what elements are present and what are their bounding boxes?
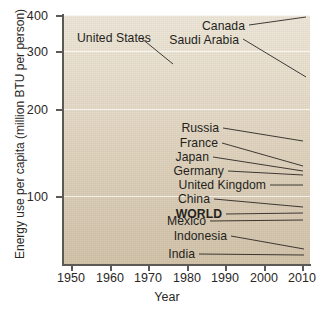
leader-mexico	[210, 220, 303, 221]
x-axis-title: Year	[0, 290, 334, 304]
series-label-mexico: Mexico	[157, 215, 206, 227]
series-label-united-states: United States	[77, 32, 151, 44]
series-label-saudi-arabia: Saudi Arabia	[163, 34, 239, 46]
leader-japan	[213, 157, 303, 171]
x-tick-label-2010: 2010	[279, 271, 325, 285]
energy-use-per-capita-chart: United States Canada Saudi Arabia Russia…	[0, 0, 334, 313]
series-label-japan: Japan	[157, 151, 209, 163]
series-label-canada: Canada	[183, 20, 245, 32]
series-label-china: China	[157, 193, 210, 205]
series-label-russia: Russia	[157, 122, 219, 134]
leader-china	[214, 199, 303, 207]
series-label-germany: Germany	[157, 165, 224, 177]
y-tick-300	[56, 51, 62, 53]
leader-canada	[249, 17, 306, 25]
y-tick-100	[56, 196, 62, 198]
leader-india	[199, 254, 304, 255]
leader-russia	[223, 128, 303, 141]
leader-indonesia	[231, 236, 304, 249]
y-axis-title: Energy use per capita (million BTU per p…	[13, 11, 27, 259]
leader-france	[222, 143, 303, 166]
y-tick-400	[56, 15, 62, 17]
leader-world	[226, 213, 303, 214]
series-label-india: India	[157, 248, 195, 260]
series-label-france: France	[157, 137, 218, 149]
leader-germany	[228, 171, 303, 175]
y-tick-200	[56, 109, 62, 111]
y-axis-line	[62, 14, 64, 265]
series-label-united-kingdom: United Kingdom	[157, 179, 266, 191]
series-label-indonesia: Indonesia	[157, 230, 227, 242]
plot-area: United States Canada Saudi Arabia Russia…	[63, 15, 310, 264]
leader-saudi-arabia	[243, 39, 306, 77]
